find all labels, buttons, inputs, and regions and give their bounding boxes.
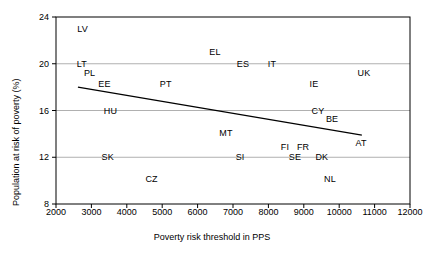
data-point-cz: CZ [145, 174, 157, 184]
x-tick-label-7000: 7000 [223, 207, 243, 217]
y-tick-mark-group [52, 17, 56, 204]
x-tick-label-11000: 11000 [362, 207, 386, 217]
data-point-nl: NL [324, 174, 336, 184]
y-tick-label-24: 24 [25, 12, 49, 22]
data-point-pt: PT [160, 79, 172, 89]
x-tick-label-9000: 9000 [294, 207, 314, 217]
data-point-be: BE [326, 114, 338, 124]
data-point-ie: IE [310, 79, 319, 89]
data-point-se: SE [289, 152, 301, 162]
y-tick-label-16: 16 [25, 106, 49, 116]
data-point-at: AT [356, 138, 367, 148]
x-tick-label-4000: 4000 [117, 207, 137, 217]
x-tick-label-8000: 8000 [258, 207, 278, 217]
chart-canvas [0, 0, 424, 256]
x-tick-label-3000: 3000 [81, 207, 101, 217]
data-point-it: IT [268, 59, 276, 69]
x-axis-title: Poverty risk threshold in PPS [0, 232, 424, 242]
data-point-dk: DK [315, 152, 328, 162]
data-point-mt: MT [219, 128, 232, 138]
y-tick-label-12: 12 [25, 152, 49, 162]
data-point-pl: PL [84, 68, 95, 78]
data-point-si: SI [236, 152, 245, 162]
data-point-sk: SK [101, 152, 113, 162]
y-axis-title: Population at risk of poverty (%) [11, 78, 21, 206]
data-point-el: EL [209, 47, 220, 57]
y-tick-label-20: 20 [25, 59, 49, 69]
data-point-fi: FI [281, 142, 289, 152]
y-tick-label-8: 8 [25, 199, 49, 209]
data-point-uk: UK [358, 68, 371, 78]
data-point-hu: HU [104, 106, 117, 116]
scatter-chart: LVLTPLEEHUSKCZPTELMTSIESITFIFRSEDKIECYBE… [0, 0, 424, 256]
data-point-es: ES [237, 59, 249, 69]
data-point-lv: LV [77, 24, 88, 34]
data-point-cy: CY [312, 106, 325, 116]
x-tick-label-10000: 10000 [327, 207, 352, 217]
data-point-ee: EE [98, 79, 110, 89]
x-tick-label-5000: 5000 [152, 207, 172, 217]
data-point-fr: FR [297, 142, 309, 152]
x-tick-label-12000: 12000 [397, 207, 422, 217]
x-tick-label-6000: 6000 [188, 207, 208, 217]
